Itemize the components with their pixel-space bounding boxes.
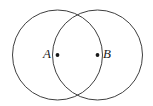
figure-background: [0, 0, 153, 106]
diagram-canvas: A B: [0, 0, 153, 106]
center-point-b-dot: [96, 53, 100, 57]
two-circles-figure: A B: [0, 0, 153, 106]
center-point-a-label: A: [42, 46, 51, 61]
center-point-b-label: B: [103, 46, 111, 61]
center-point-a-dot: [56, 53, 60, 57]
